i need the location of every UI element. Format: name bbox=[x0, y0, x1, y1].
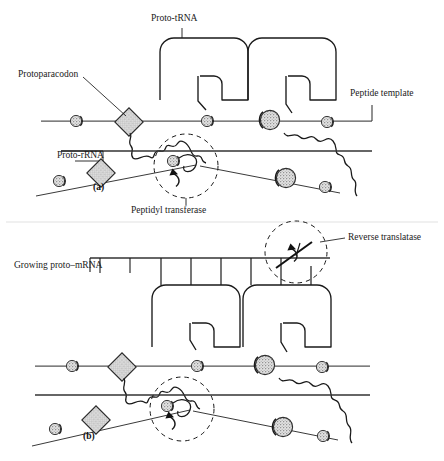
bead-large bbox=[272, 417, 292, 436]
bead-small bbox=[167, 155, 179, 166]
label-protoparacodon: Protoparacodon bbox=[18, 70, 78, 80]
bead-small bbox=[70, 115, 82, 126]
panel-key-b: (b) bbox=[83, 432, 95, 442]
proto-trna-clamp-right bbox=[243, 285, 331, 352]
protoparacodon-leader bbox=[83, 77, 126, 116]
figure-root: Proto-tRNA Protoparacodon Peptide templa… bbox=[0, 0, 444, 461]
reverse-translatase-bar bbox=[276, 242, 312, 268]
proto-trna-clamp-left bbox=[160, 38, 248, 110]
label-reverse-translatase: Reverse translatase bbox=[348, 233, 421, 243]
label-peptidyl-transferase: Peptidyl transferase bbox=[131, 206, 206, 216]
bead-small bbox=[53, 175, 65, 186]
catalytic-hook-arrow bbox=[169, 168, 179, 186]
bead-large bbox=[254, 355, 274, 374]
protoparacodon-diamond bbox=[115, 108, 143, 136]
bead-small bbox=[49, 423, 61, 434]
panel-b-graphics bbox=[32, 221, 370, 446]
panel-a-graphics bbox=[36, 28, 372, 205]
proto-trna-clamp-left bbox=[152, 285, 240, 350]
polypeptide-squiggle bbox=[173, 400, 191, 417]
bead-small bbox=[316, 361, 328, 372]
protoparacodon-diamond bbox=[108, 353, 136, 381]
bead-small bbox=[317, 430, 329, 441]
bead-small bbox=[161, 400, 173, 411]
lower-chain-line bbox=[200, 166, 340, 193]
protoparacodon-diamond bbox=[82, 406, 110, 434]
lower-chain-line bbox=[193, 411, 338, 440]
bead-small bbox=[201, 115, 213, 126]
label-proto-rrna: Proto-rRNA bbox=[57, 151, 104, 161]
bead-small bbox=[191, 360, 203, 371]
bead-large bbox=[259, 110, 279, 129]
label-growing-proto-mrna: Growing proto–mRNA bbox=[14, 261, 102, 271]
bead-large bbox=[275, 168, 295, 187]
polypeptide-squiggle bbox=[179, 155, 197, 172]
panel-key-a: (a) bbox=[93, 183, 104, 193]
bead-small bbox=[66, 360, 78, 371]
label-peptide-template: Peptide template bbox=[350, 89, 414, 99]
proto-trna-clamp-right bbox=[248, 38, 336, 113]
bead-small bbox=[319, 181, 331, 192]
dashed-circle-peptidyl-transferase bbox=[150, 377, 214, 441]
bead-small bbox=[321, 116, 333, 127]
label-proto-trna: Proto-tRNA bbox=[151, 14, 197, 24]
